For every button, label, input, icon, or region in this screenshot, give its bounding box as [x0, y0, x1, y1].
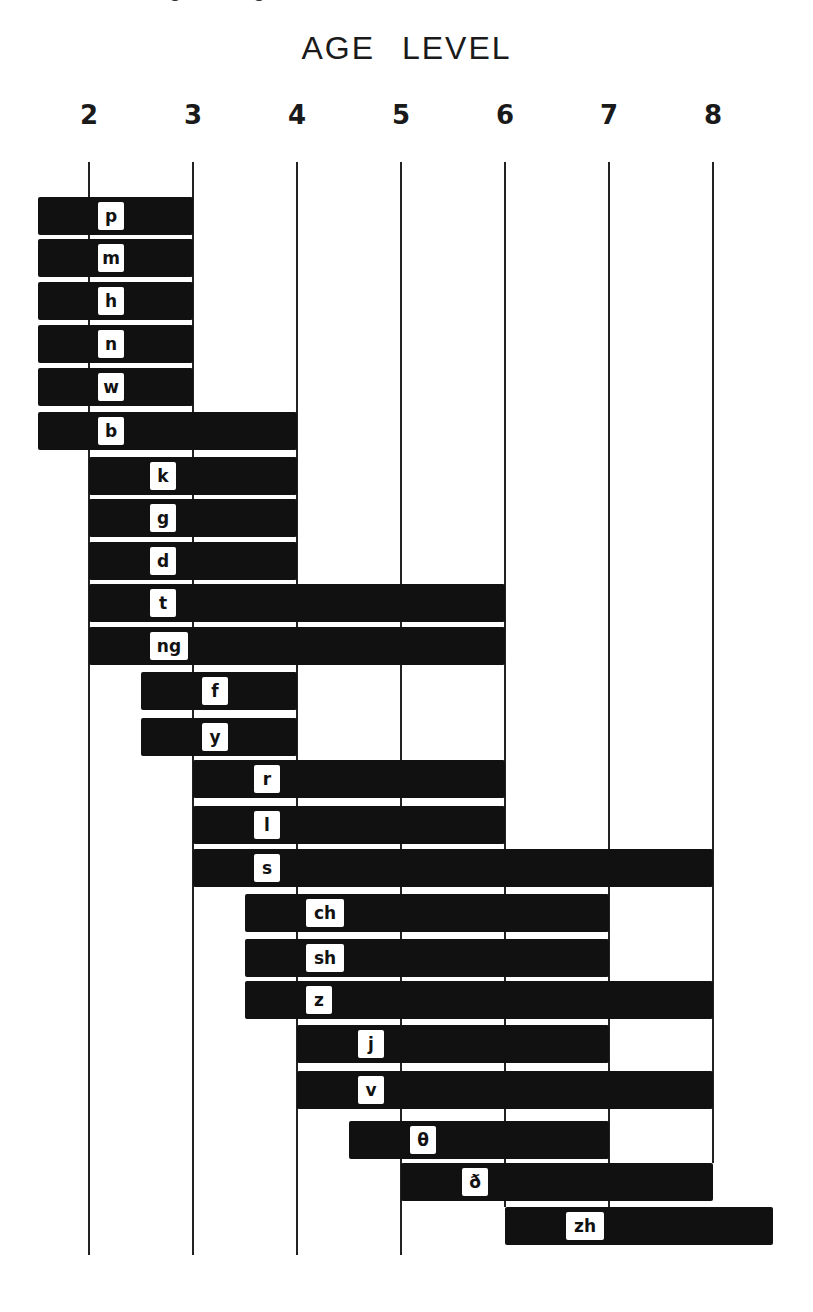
sound-label: sh [306, 944, 344, 972]
x-tick-label: 8 [693, 100, 733, 130]
range-bar: l [193, 806, 505, 844]
sound-label: ð [462, 1168, 488, 1196]
range-bar: d [89, 542, 297, 580]
range-bar: y [141, 718, 297, 756]
range-bar: θ [349, 1121, 609, 1159]
sound-label: j [358, 1030, 384, 1058]
sound-label: θ [410, 1126, 436, 1154]
x-tick-label: 6 [485, 100, 525, 130]
range-bar: ð [401, 1163, 713, 1201]
sound-label: l [254, 811, 280, 839]
sound-label: h [98, 287, 124, 315]
sound-label: t [150, 589, 176, 617]
range-bar: b [38, 412, 297, 450]
sound-label: b [98, 417, 124, 445]
range-bar: t [89, 584, 505, 622]
x-tick-label: 3 [173, 100, 213, 130]
range-bar: k [89, 457, 297, 495]
cropped-glyph-fragment [168, 0, 308, 2]
sound-label: n [98, 330, 124, 358]
sound-label: z [306, 986, 332, 1014]
range-bar: g [89, 499, 297, 537]
sound-label: g [150, 504, 176, 532]
age-level-chart: AGE LEVEL 2345678 pmhnwbkgdtngfyrlschshz… [0, 0, 813, 1312]
range-bar: ng [89, 627, 505, 665]
sound-label: ng [150, 632, 188, 660]
sound-label: zh [566, 1212, 604, 1240]
range-bar: j [297, 1025, 609, 1063]
range-bar: f [141, 672, 297, 710]
sound-label: s [254, 854, 280, 882]
sound-label: w [98, 373, 124, 401]
x-tick-label: 4 [277, 100, 317, 130]
sound-label: p [98, 202, 124, 230]
sound-label: v [358, 1076, 384, 1104]
sound-label: d [150, 547, 176, 575]
range-bar: r [193, 760, 505, 798]
sound-label: m [98, 244, 124, 272]
range-bar: h [38, 282, 193, 320]
sound-label: y [202, 723, 228, 751]
range-bar: m [38, 239, 193, 277]
range-bar: p [38, 197, 193, 235]
range-bar: w [38, 368, 193, 406]
x-tick-label: 5 [381, 100, 421, 130]
range-bar: z [245, 981, 713, 1019]
range-bar: s [193, 849, 713, 887]
chart-title: AGE LEVEL [0, 30, 813, 67]
range-bar: n [38, 325, 193, 363]
range-bar: sh [245, 939, 609, 977]
sound-label: f [202, 677, 228, 705]
x-tick-label: 2 [69, 100, 109, 130]
sound-label: r [254, 765, 280, 793]
range-bar: v [297, 1071, 713, 1109]
sound-label: k [150, 462, 176, 490]
sound-label: ch [306, 899, 344, 927]
range-bar: zh [505, 1207, 773, 1245]
range-bar: ch [245, 894, 609, 932]
x-tick-label: 7 [589, 100, 629, 130]
